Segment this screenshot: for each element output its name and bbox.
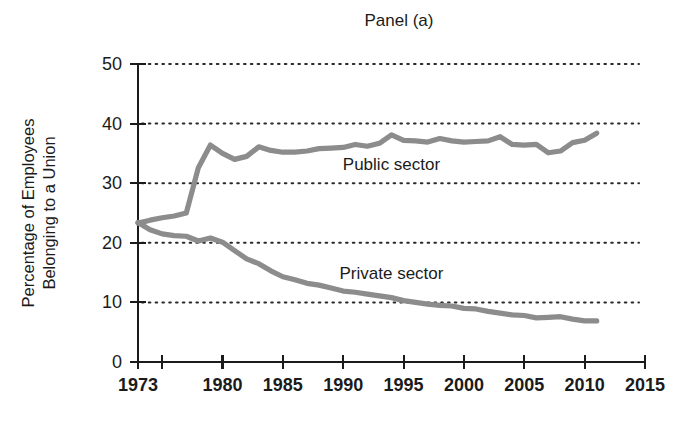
x-tick-label-2005: 2005 bbox=[504, 375, 544, 395]
x-tick-label-1980: 1980 bbox=[202, 375, 242, 395]
chart-svg: Panel (a) 01020304050 197319801985199019… bbox=[0, 0, 684, 437]
series-label-private-sector: Private sector bbox=[340, 264, 444, 283]
chart-title: Panel (a) bbox=[365, 11, 434, 30]
x-tick-label-1995: 1995 bbox=[384, 375, 424, 395]
y-axis-title-line1: Percentage of Employees bbox=[19, 119, 37, 308]
y-axis-title-line2: Belonging to a Union bbox=[40, 136, 58, 289]
x-tick-label-2000: 2000 bbox=[444, 375, 484, 395]
y-tick-label-40: 40 bbox=[102, 114, 122, 134]
y-tick-label-50: 50 bbox=[102, 54, 122, 74]
x-tick-label-2015: 2015 bbox=[625, 375, 665, 395]
x-tick-label-1973: 1973 bbox=[118, 375, 158, 395]
x-tick-label-2010: 2010 bbox=[565, 375, 605, 395]
series-label-public-sector: Public sector bbox=[343, 155, 441, 174]
y-tick-label-0: 0 bbox=[112, 352, 122, 372]
x-tick-label-1985: 1985 bbox=[263, 375, 303, 395]
y-tick-label-10: 10 bbox=[102, 292, 122, 312]
y-tick-label-20: 20 bbox=[102, 233, 122, 253]
chart-figure: Panel (a) 01020304050 197319801985199019… bbox=[0, 0, 684, 437]
x-tick-label-1990: 1990 bbox=[323, 375, 363, 395]
y-tick-label-30: 30 bbox=[102, 173, 122, 193]
